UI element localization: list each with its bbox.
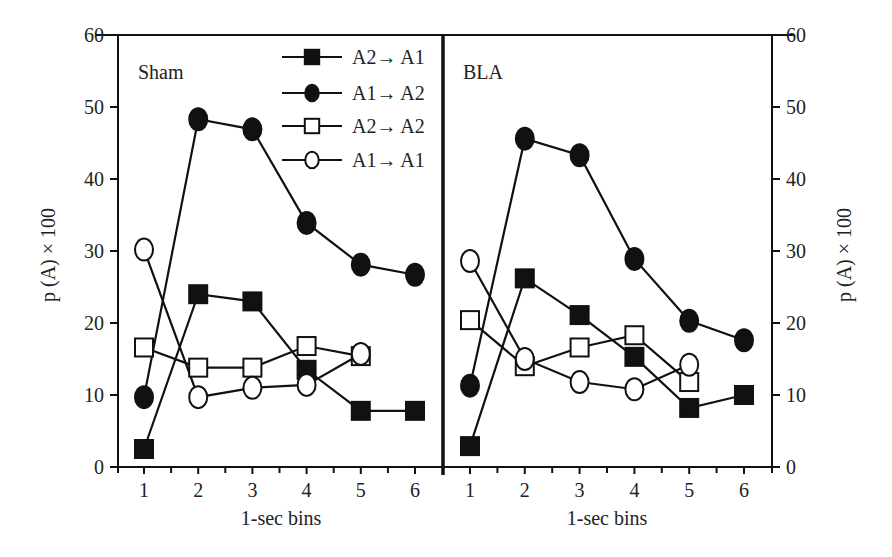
filled-circle-marker: [625, 248, 643, 270]
open-square-marker: [571, 338, 589, 356]
y-tick-label-right: 40: [786, 168, 806, 190]
open-square-marker: [461, 311, 479, 329]
series-line: [470, 278, 744, 446]
open-circle-marker: [305, 152, 319, 169]
filled-square-marker: [189, 285, 207, 303]
filled-square-marker: [735, 386, 753, 404]
y-axis-label-left: p (A) × 100: [37, 208, 60, 302]
x-axis-label-right: 1-sec bins: [567, 507, 648, 529]
legend-item: A1→ A2: [282, 82, 425, 104]
axis-ticks: 00101020203030404050506060123456123456: [84, 24, 806, 501]
legend: A2→ A1A1→ A2A2→ A2A1→ A1: [282, 46, 425, 171]
filled-circle-marker: [305, 85, 319, 102]
open-square-marker: [625, 326, 643, 344]
y-axis-label-right: p (A) × 100: [833, 208, 856, 302]
y-tick-label-left: 40: [84, 168, 104, 190]
filled-square-marker: [352, 402, 370, 420]
panel-bla-series: [461, 128, 753, 455]
filled-circle-marker: [680, 310, 698, 332]
y-tick-label-left: 20: [84, 312, 104, 334]
open-square-marker: [298, 337, 316, 355]
x-tick-label: 4: [302, 479, 312, 501]
filled-square-marker: [406, 402, 424, 420]
open-circle-marker: [135, 239, 153, 261]
x-tick-label: 1: [465, 479, 475, 501]
open-square-marker: [243, 359, 261, 377]
series-line: [144, 294, 415, 449]
filled-square-marker: [680, 399, 698, 417]
open-square-marker: [305, 119, 319, 133]
chart-figure: 00101020203030404050506060123456123456 A…: [0, 0, 892, 557]
y-tick-label-right: 0: [786, 456, 796, 478]
filled-square-marker: [135, 440, 153, 458]
filled-circle-marker: [243, 118, 261, 140]
filled-square-marker: [461, 437, 479, 455]
filled-square-marker: [243, 292, 261, 310]
legend-label: A2→ A2: [352, 115, 425, 137]
legend-label: A1→ A1: [352, 149, 425, 171]
x-tick-label: 2: [520, 479, 530, 501]
x-tick-label: 3: [247, 479, 257, 501]
open-circle-marker: [298, 374, 316, 396]
x-tick-label: 6: [739, 479, 749, 501]
open-circle-marker: [625, 378, 643, 400]
filled-circle-marker: [352, 254, 370, 276]
filled-circle-marker: [406, 264, 424, 286]
x-tick-label: 5: [684, 479, 694, 501]
y-tick-label-right: 60: [786, 24, 806, 46]
filled-square-marker: [571, 306, 589, 324]
y-tick-label-right: 10: [786, 384, 806, 406]
open-square-marker: [135, 338, 153, 356]
open-circle-marker: [571, 371, 589, 393]
open-circle-marker: [189, 386, 207, 408]
series-line: [470, 139, 744, 386]
open-circle-marker: [352, 343, 370, 365]
y-tick-label-left: 0: [94, 456, 104, 478]
open-circle-marker: [516, 348, 534, 370]
filled-square-marker: [625, 348, 643, 366]
x-tick-label: 2: [193, 479, 203, 501]
y-tick-label-left: 50: [84, 96, 104, 118]
filled-circle-marker: [571, 144, 589, 166]
y-tick-label-right: 20: [786, 312, 806, 334]
filled-circle-marker: [516, 128, 534, 150]
legend-label: A2→ A1: [352, 46, 425, 68]
filled-circle-marker: [135, 386, 153, 408]
x-axis-label-left: 1-sec bins: [241, 507, 322, 529]
filled-circle-marker: [189, 108, 207, 130]
panel-title-sham: Sham: [138, 61, 184, 83]
open-circle-marker: [680, 354, 698, 376]
open-square-marker: [189, 359, 207, 377]
open-circle-marker: [243, 377, 261, 399]
panel-title-bla: BLA: [463, 61, 504, 83]
legend-item: A1→ A1: [282, 149, 425, 171]
filled-circle-marker: [298, 212, 316, 234]
y-tick-label-right: 30: [786, 240, 806, 262]
legend-label: A1→ A2: [352, 82, 425, 104]
y-tick-label-left: 10: [84, 384, 104, 406]
legend-item: A2→ A2: [282, 115, 425, 137]
x-tick-label: 4: [629, 479, 639, 501]
filled-circle-marker: [461, 375, 479, 397]
filled-square-marker: [305, 50, 319, 64]
y-tick-label-right: 50: [786, 96, 806, 118]
filled-circle-marker: [735, 329, 753, 351]
y-tick-label-left: 30: [84, 240, 104, 262]
x-tick-label: 1: [139, 479, 149, 501]
x-tick-label: 6: [410, 479, 420, 501]
x-tick-label: 5: [356, 479, 366, 501]
x-tick-label: 3: [575, 479, 585, 501]
filled-square-marker: [516, 269, 534, 287]
y-tick-label-left: 60: [84, 24, 104, 46]
legend-item: A2→ A1: [282, 46, 425, 68]
series-line: [470, 261, 689, 389]
open-circle-marker: [461, 250, 479, 272]
